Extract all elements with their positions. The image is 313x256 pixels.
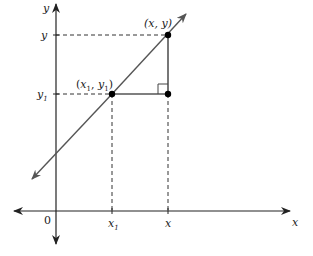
tick-label-y1-sub: 1 xyxy=(43,95,47,103)
slope-diagram: y x 0 y y1 x1 x (x1, y1) (x, y) xyxy=(0,0,313,256)
tick-label-y: y xyxy=(40,29,48,42)
tick-label-y1: y1 xyxy=(36,88,48,103)
p1-sep: , xyxy=(91,78,98,91)
point-x1-y1 xyxy=(109,91,115,97)
x-axis-label: x xyxy=(292,216,299,229)
line-backward xyxy=(32,94,112,179)
tick-label-x: x xyxy=(165,217,172,230)
tick-label-x1: x1 xyxy=(108,217,119,232)
point-label-x1-y1: (x1, y1) xyxy=(76,78,113,93)
y-axis-label: y xyxy=(42,2,50,15)
origin-label: 0 xyxy=(44,214,51,227)
point-label-x-y: (x, y) xyxy=(144,17,172,30)
point-x-y xyxy=(165,32,171,38)
p1-close-paren: ) xyxy=(109,78,113,91)
tick-label-x1-sub: 1 xyxy=(114,224,118,232)
point-corner xyxy=(165,91,171,97)
